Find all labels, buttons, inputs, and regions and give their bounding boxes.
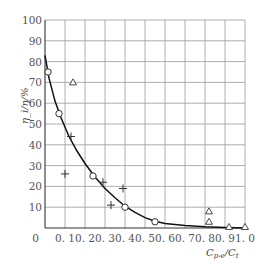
- y-tick-label: 80: [29, 56, 42, 68]
- circle-marker: [122, 204, 128, 210]
- plus-marker: [107, 201, 115, 209]
- plus-marker: [99, 178, 107, 186]
- y-tick-label: 20: [29, 180, 42, 192]
- circle-marker: [56, 110, 62, 116]
- circle-marker: [152, 219, 158, 225]
- triangle-marker: [226, 223, 233, 229]
- y-tick-label: 90: [29, 35, 42, 47]
- chart: 0. 10. 20. 30. 40. 50. 60. 70. 80. 91. 0…: [0, 0, 267, 267]
- x-tick-label: 0. 7: [175, 232, 195, 244]
- x-tick-label: 0. 5: [135, 232, 155, 244]
- plot-area: [45, 55, 249, 229]
- x-axis-label: Cp-e/Ct: [206, 247, 239, 260]
- triangle-marker: [206, 218, 213, 224]
- origin-label: 0: [32, 232, 39, 244]
- y-tick-label: 30: [29, 160, 42, 172]
- circle-marker: [45, 69, 51, 75]
- x-tick-label: 0. 2: [75, 232, 95, 244]
- x-tick-label: 0. 3: [95, 232, 115, 244]
- y-tick-label: 100: [22, 14, 42, 26]
- y-tick-label: 60: [29, 97, 42, 109]
- y-tick-label: 50: [29, 118, 42, 130]
- tick-labels: 0. 10. 20. 30. 40. 50. 60. 70. 80. 91. 0…: [22, 14, 255, 244]
- x-tick-label: 0. 4: [115, 232, 135, 244]
- y-axis-label: η_i/η/%: [19, 88, 31, 124]
- x-tick-label: 0. 8: [195, 232, 215, 244]
- x-tick-label: 1. 0: [235, 232, 255, 244]
- grid: [45, 20, 245, 228]
- triangle-marker: [242, 223, 249, 229]
- y-tick-label: 70: [29, 76, 42, 88]
- triangle-marker: [70, 79, 77, 85]
- y-tick-label: 10: [29, 201, 42, 213]
- triangle-marker: [206, 208, 213, 214]
- plus-marker: [61, 170, 69, 178]
- x-tick-label: 0. 6: [155, 232, 175, 244]
- x-tick-label: 0. 9: [215, 232, 235, 244]
- plus-marker: [119, 184, 127, 192]
- circle-marker: [90, 173, 96, 179]
- x-tick-label: 0. 1: [55, 232, 75, 244]
- y-tick-label: 40: [29, 139, 42, 151]
